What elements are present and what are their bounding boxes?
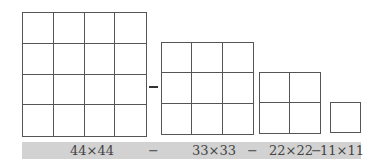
grid-cell [260,103,290,133]
grid-cell [54,75,85,106]
term-22x22: 22×22 [269,142,313,159]
grid-cell [162,73,192,103]
term-44x44: 44×44 [70,142,114,159]
grid-4x4 [22,12,147,137]
grid-cell [192,104,222,134]
grid-cell [85,105,116,136]
grid-cell [85,13,116,44]
grid-cell [162,104,192,134]
grid-cell [23,105,54,136]
grid-cell [54,13,85,44]
grid-1x1 [330,102,361,133]
grid-cell [115,75,146,106]
grid-cell [290,103,320,133]
formula-bar: 44×44 − 33×33 − 22×22 − 11×11 [22,142,361,159]
grid-cell [54,44,85,75]
grid-2x2 [259,72,321,134]
grid-cell [115,13,146,44]
grid-cell [223,73,253,103]
grid-cell [223,43,253,73]
grid-cell [23,75,54,106]
operator-minus-2: − [247,142,258,159]
term-11x11: 11×11 [320,142,364,159]
term-33x33: 33×33 [192,142,236,159]
grid-cell [290,73,320,103]
grid-cell [260,73,290,103]
grid-cell [223,104,253,134]
grid-cell [23,44,54,75]
grid-cell [192,73,222,103]
grid-cell [115,44,146,75]
grid-cell [331,103,360,132]
minus-sign [149,86,158,88]
grid-cell [54,105,85,136]
grid-cell [23,13,54,44]
grid-cell [115,105,146,136]
operator-minus-1: − [148,142,159,159]
grid-cell [192,43,222,73]
grid-cell [85,44,116,75]
grid-cell [85,75,116,106]
grid-3x3 [161,42,254,135]
grid-cell [162,43,192,73]
